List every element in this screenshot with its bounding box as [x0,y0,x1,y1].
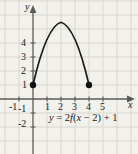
x-tick-3: 3 [72,102,77,112]
x-tick-5: 5 [100,102,105,112]
y-tick-neg1: -1 [18,104,26,114]
y-tick-4: 4 [21,38,26,48]
equation-caption: y = 2f(x − 2) + 1 [49,113,118,124]
y-tick-neg2: -2 [18,119,26,129]
y-axis [30,5,37,154]
graph-figure: y x 4 3 2 1 -1 -2 -1 1 2 3 4 5 y = 2f(x … [0,0,138,154]
y-axis-label: y [25,2,29,12]
equation-tail: + 1 [101,112,117,123]
equation-equals: = 2 [54,112,70,123]
x-tick-4: 4 [86,102,91,112]
x-tick-2: 2 [58,102,63,112]
y-tick-2: 2 [21,66,26,76]
grid-lines [0,0,138,154]
x-tick-1: 1 [45,102,50,112]
coordinate-plot [0,0,138,154]
left-endpoint-dot [30,82,36,88]
right-endpoint-dot [86,82,92,88]
x-axis-label: x [128,100,132,110]
x-axis [0,96,135,103]
y-tick-1: 1 [22,80,27,90]
y-tick-3: 3 [21,52,26,62]
equation-inner: − 2 [81,112,97,123]
x-tick-neg1: -1 [9,102,17,112]
